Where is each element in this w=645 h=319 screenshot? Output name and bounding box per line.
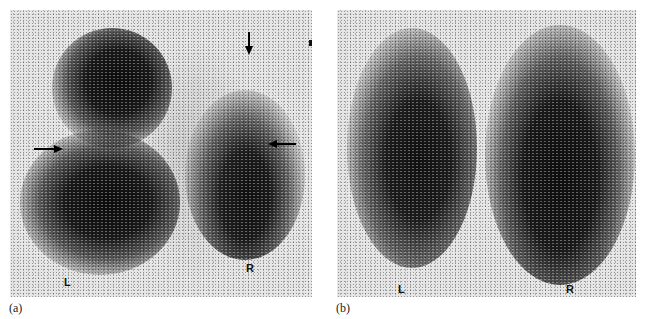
right-lung-uptake <box>485 25 635 285</box>
side-label-left: L <box>398 283 405 295</box>
scan-panel-b: L R <box>337 10 636 297</box>
left-lung-uptake <box>347 28 477 268</box>
caption-a: (a) <box>9 301 22 316</box>
side-label-right: R <box>566 283 574 295</box>
arrow-left-icon <box>268 139 296 149</box>
caption-b: (b) <box>336 301 350 316</box>
side-label-left: L <box>64 276 71 288</box>
arrow-right-icon <box>34 144 64 154</box>
side-label-right: R <box>246 262 254 274</box>
arrow-down-icon <box>244 32 254 56</box>
edge-mark <box>309 40 312 46</box>
background-activity <box>130 40 260 280</box>
scan-panel-a: L R <box>10 10 312 297</box>
